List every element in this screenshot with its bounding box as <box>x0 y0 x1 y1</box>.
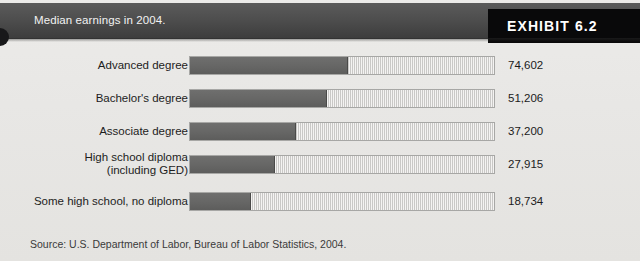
bar-category-label-line2: (including GED) <box>0 164 188 177</box>
bar-value-label: 51,206 <box>508 92 543 104</box>
bar-value-label: 37,200 <box>508 125 543 137</box>
bar-track <box>189 89 495 108</box>
bar-category-label-line1: Advanced degree <box>98 59 188 71</box>
bar-track <box>189 192 495 211</box>
bar-value-label: 27,915 <box>508 158 543 170</box>
exhibit-figure: Median earnings in 2004. EXHIBIT 6.2 Adv… <box>0 0 640 261</box>
bar-chart: Advanced degree 74,602 Bachelor's degree… <box>0 52 640 222</box>
chart-row: Bachelor's degree 51,206 <box>0 89 640 108</box>
bar-fill <box>190 123 296 140</box>
bar-category-label-line1: High school diploma <box>84 151 188 163</box>
bar-category-label: Associate degree <box>0 125 188 138</box>
source-note: Source: U.S. Department of Labor, Bureau… <box>30 238 346 250</box>
bar-track <box>189 56 495 75</box>
exhibit-number-label: EXHIBIT 6.2 <box>507 18 598 34</box>
bar-category-label: Some high school, no diploma <box>0 195 188 208</box>
bar-fill <box>190 90 327 107</box>
exhibit-header-band: Median earnings in 2004. EXHIBIT 6.2 <box>0 3 640 39</box>
bar-category-label-line1: Associate degree <box>99 125 188 137</box>
bar-track <box>189 155 495 174</box>
exhibit-caption: Median earnings in 2004. <box>34 14 166 26</box>
bar-category-label-line1: Some high school, no diploma <box>34 195 188 207</box>
bar-value-label: 74,602 <box>508 59 543 71</box>
bar-value-label: 18,734 <box>508 195 543 207</box>
chart-row: Some high school, no diploma 18,734 <box>0 192 640 211</box>
bar-fill <box>190 57 348 74</box>
bar-category-label: Advanced degree <box>0 59 188 72</box>
bar-category-label: Bachelor's degree <box>0 92 188 105</box>
bar-fill <box>190 193 251 210</box>
exhibit-number-badge: EXHIBIT 6.2 <box>488 9 640 43</box>
chart-row: Associate degree 37,200 <box>0 122 640 141</box>
chart-row: High school diploma (including GED) 27,9… <box>0 155 640 174</box>
bar-track <box>189 122 495 141</box>
bar-category-label: High school diploma (including GED) <box>0 151 188 177</box>
bar-fill <box>190 156 275 173</box>
bar-category-label-line1: Bachelor's degree <box>96 92 188 104</box>
chart-row: Advanced degree 74,602 <box>0 56 640 75</box>
